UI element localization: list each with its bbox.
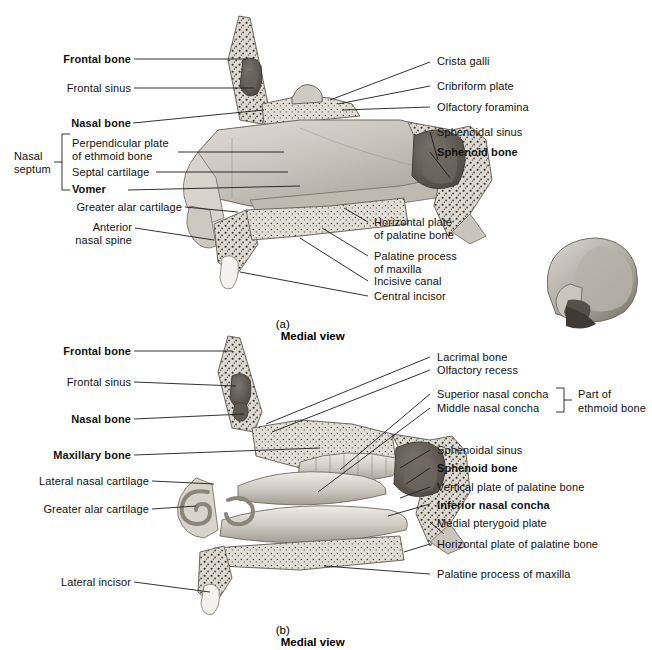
label-frontal-sinus-b: Frontal sinus [0, 376, 131, 389]
label-olfactory-foramina: Olfactory foramina [437, 101, 529, 114]
panel-b-illustration [177, 336, 470, 615]
label-inferior-nasal-concha: Inferior nasal concha [437, 499, 550, 512]
caption-panel-b: (b) Medial view [263, 612, 345, 650]
label-horizontal-plate-a-line1: Horizontal plate [374, 216, 452, 229]
label-frontal-bone-b: Frontal bone [0, 345, 131, 358]
label-vomer: Vomer [72, 183, 106, 196]
caption-a-text: Medial view [281, 330, 345, 342]
label-nasal-bone-b: Nasal bone [0, 413, 131, 426]
label-middle-nasal-concha: Middle nasal concha [437, 402, 539, 415]
label-lateral-nasal-cartilage: Lateral nasal cartilage [0, 475, 149, 488]
label-anterior-nasal-spine-line1: Anterior [0, 221, 132, 234]
label-lacrimal-bone: Lacrimal bone [437, 351, 507, 364]
label-nasal-bone-a: Nasal bone [0, 117, 131, 130]
label-nasal-septum-line1: Nasal [14, 150, 43, 163]
part-of-ethmoid-bone-bracket [556, 388, 572, 412]
label-sphenoidal-sinus-b: Sphenoidal sinus [437, 444, 522, 457]
label-cribriform-plate: Cribriform plate [437, 80, 514, 93]
orientation-skull-inset [547, 238, 637, 329]
label-palatine-process-a-line1: Palatine process [374, 250, 457, 263]
label-greater-alar-cartilage-a: Greater alar cartilage [0, 201, 182, 214]
label-vertical-plate-palatine: Vertical plate of palatine bone [437, 481, 584, 494]
label-superior-nasal-concha: Superior nasal concha [437, 388, 549, 401]
caption-b-text: Medial view [281, 636, 345, 648]
label-central-incisor: Central incisor [374, 290, 446, 303]
label-perpendicular-plate-line2: of ethmoid bone [72, 150, 152, 163]
label-palatine-process-maxilla-b: Palatine process of maxilla [437, 568, 571, 581]
label-part-of-ethmoid-line1: Part of [578, 388, 611, 401]
label-nasal-septum-line2: septum [14, 163, 51, 176]
label-medial-pterygoid-plate: Medial pterygoid plate [437, 517, 547, 530]
label-frontal-bone-a: Frontal bone [0, 53, 131, 66]
label-sphenoid-bone-b: Sphenoid bone [437, 462, 518, 475]
caption-a-letter: (a) [276, 318, 290, 330]
label-frontal-sinus-a: Frontal sinus [0, 82, 131, 95]
label-part-of-ethmoid-line2: ethmoid bone [578, 402, 646, 415]
nasal-septum-bracket [54, 134, 70, 190]
label-horizontal-plate-palatine-b: Horizontal plate of palatine bone [437, 538, 598, 551]
label-perpendicular-plate-line1: Perpendicular plate [72, 137, 169, 150]
label-sphenoid-bone-a: Sphenoid bone [437, 146, 518, 159]
caption-panel-a: (a) Medial view [263, 306, 345, 354]
label-lateral-incisor: Lateral incisor [0, 576, 131, 589]
label-crista-galli: Crista galli [437, 55, 490, 68]
label-olfactory-recess: Olfactory recess [437, 364, 518, 377]
label-horizontal-plate-a-line2: of palatine bone [374, 229, 454, 242]
label-maxillary-bone: Maxillary bone [0, 449, 131, 462]
label-palatine-process-a-line2: of maxilla [374, 263, 421, 276]
label-incisive-canal: Incisive canal [374, 275, 441, 288]
label-greater-alar-cartilage-b: Greater alar cartilage [0, 503, 149, 516]
label-septal-cartilage: Septal cartilage [72, 166, 149, 179]
caption-b-letter: (b) [276, 624, 290, 636]
label-sphenoidal-sinus-a: Sphenoidal sinus [437, 126, 522, 139]
label-anterior-nasal-spine-line2: nasal spine [0, 234, 132, 247]
